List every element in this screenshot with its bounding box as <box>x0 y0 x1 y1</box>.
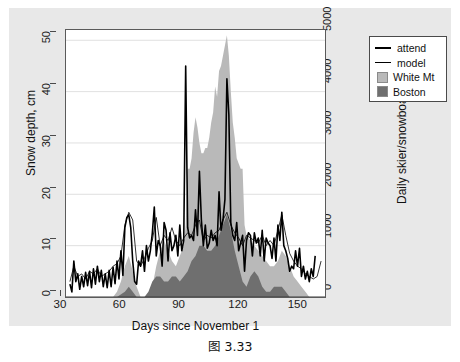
legend-item-attend: attend <box>374 41 442 56</box>
legend-item-white-mt: White Mt <box>374 70 442 85</box>
y-tick-label: 30 <box>40 135 52 165</box>
y2-tick-label: 5000 <box>321 0 333 31</box>
y-axis-title: Snow depth, cm <box>24 53 38 213</box>
figure-caption: 图 3.33 <box>0 336 460 355</box>
x-axis-title: Days since November 1 <box>65 319 326 333</box>
line-thin-icon <box>374 57 392 69</box>
figure-page: Snow depth, cm Daily skier/snowboarder v… <box>0 0 460 362</box>
legend-label-white-mt: White Mt <box>393 72 434 83</box>
x-tick-label: 60 <box>99 298 139 310</box>
plot-area <box>65 29 326 298</box>
legend-label-boston: Boston <box>393 87 426 98</box>
legend-label-attend: attend <box>397 43 426 54</box>
line-thick-icon <box>374 42 392 54</box>
swatch-boston-icon <box>377 86 388 97</box>
legend-item-model: model <box>374 56 442 71</box>
y-tick-label: 40 <box>40 83 52 113</box>
legend-item-boston: Boston <box>374 85 442 100</box>
y-tick-label: 20 <box>40 187 52 217</box>
x-tick-label: 120 <box>218 298 258 310</box>
swatch-white-mt-icon <box>377 72 388 83</box>
figure-canvas: Snow depth, cm Daily skier/snowboarder v… <box>9 8 451 326</box>
x-tick-label: 90 <box>159 298 199 310</box>
chart-legend: attend model White Mt Boston <box>369 36 447 102</box>
y-tick-label: 10 <box>40 238 52 268</box>
chart-canvas <box>66 30 325 297</box>
x-tick-label: 150 <box>277 298 317 310</box>
legend-label-model: model <box>397 58 426 69</box>
x-tick-mark <box>60 290 61 296</box>
y-tick-label: 50 <box>40 31 52 61</box>
x-tick-label: 30 <box>40 298 80 310</box>
